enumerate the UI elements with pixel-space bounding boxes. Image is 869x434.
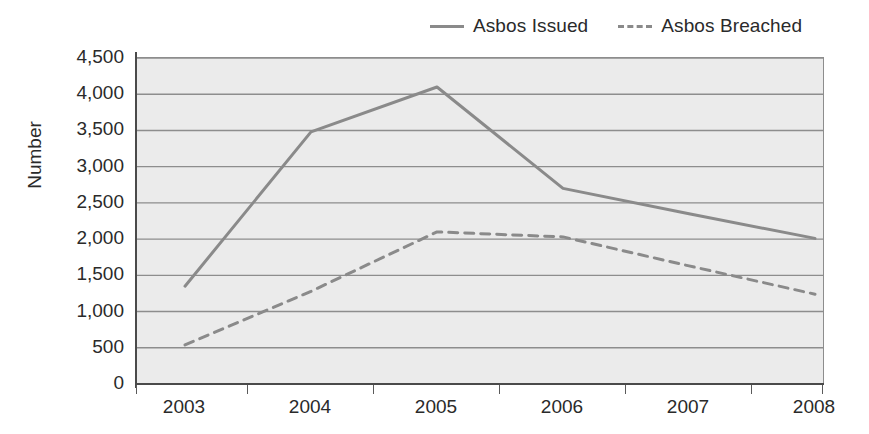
plot-area [136,57,824,385]
y-axis-tick-label: 4,500 [48,46,124,68]
x-axis-tick-label: 2007 [643,396,733,418]
legend-item-asbos-breached: Asbos Breached [618,15,802,37]
x-axis-tick-label: 2008 [769,396,859,418]
legend-item-asbos-issued: Asbos Issued [430,15,588,37]
y-axis-line [135,52,137,388]
dashed-line-icon [618,25,652,28]
x-axis-tick-label: 2005 [391,396,481,418]
y-axis-tick-label: 500 [48,336,124,358]
y-axis-tick-label: 3,000 [48,155,124,177]
chart-page: Asbos Issued Asbos Breached Number 05001… [0,0,869,434]
x-axis-tickmark [822,385,823,394]
y-axis-tick-label: 2,000 [48,227,124,249]
y-axis-tick-labels: 05001,0001,5002,0002,5003,0003,5004,0004… [48,45,124,385]
legend-label: Asbos Issued [473,15,588,37]
chart-canvas [137,58,823,384]
y-axis-tick-label: 1,000 [48,300,124,322]
x-axis-tickmark [499,385,500,394]
y-axis-tick-label: 3,500 [48,118,124,140]
x-axis-tick-label: 2003 [139,396,229,418]
legend-label: Asbos Breached [661,15,802,37]
chart-legend: Asbos Issued Asbos Breached [430,12,802,40]
x-axis-tickmark [373,385,374,394]
solid-line-icon [430,25,464,28]
x-axis-tick-label: 2006 [517,396,607,418]
y-axis-tick-label: 1,500 [48,263,124,285]
x-axis-tick-label: 2004 [265,396,355,418]
y-axis-tick-label: 0 [48,372,124,394]
x-axis-tickmark [247,385,248,394]
x-axis-tickmark [136,385,137,394]
gridlines [137,58,823,348]
series-lines [185,87,815,345]
y-axis-tick-label: 4,000 [48,82,124,104]
x-axis-tickmark [625,385,626,394]
y-axis-tick-label: 2,500 [48,191,124,213]
x-axis-line [135,383,824,385]
x-axis-tickmark [751,385,752,394]
series-line-asbos-issued [185,87,815,286]
series-line-asbos-breached [185,232,815,345]
y-axis-title: Number [24,95,46,215]
